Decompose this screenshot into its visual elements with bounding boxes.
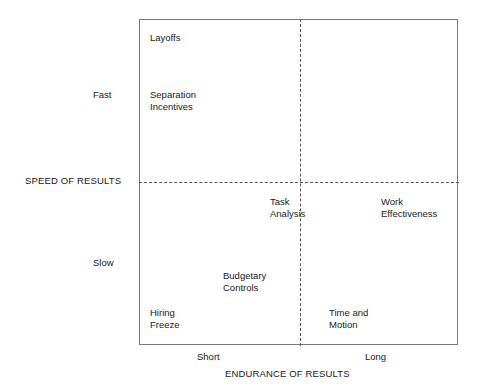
y-axis-tick-slow: Slow — [93, 257, 114, 269]
x-axis-tick-short: Short — [197, 351, 220, 363]
quadrant-matrix-diagram: Layoffs Separation Incentives Task Analy… — [0, 0, 479, 392]
item-work-effectiveness: Work Effectiveness — [381, 196, 437, 220]
horizontal-divider-line — [139, 182, 459, 183]
y-axis-tick-fast: Fast — [93, 89, 111, 101]
item-budgetary-controls: Budgetary Controls — [223, 270, 266, 294]
x-axis-title: ENDURANCE OF RESULTS — [225, 368, 350, 380]
item-time-and-motion: Time and Motion — [329, 307, 368, 331]
item-task-analysis: Task Analysis — [270, 196, 305, 220]
vertical-divider-line — [300, 19, 301, 346]
item-separation-incentives: Separation Incentives — [150, 89, 196, 113]
item-layoffs: Layoffs — [150, 32, 180, 44]
item-hiring-freeze: Hiring Freeze — [150, 307, 180, 331]
y-axis-title: SPEED OF RESULTS — [25, 175, 121, 187]
x-axis-tick-long: Long — [365, 351, 386, 363]
